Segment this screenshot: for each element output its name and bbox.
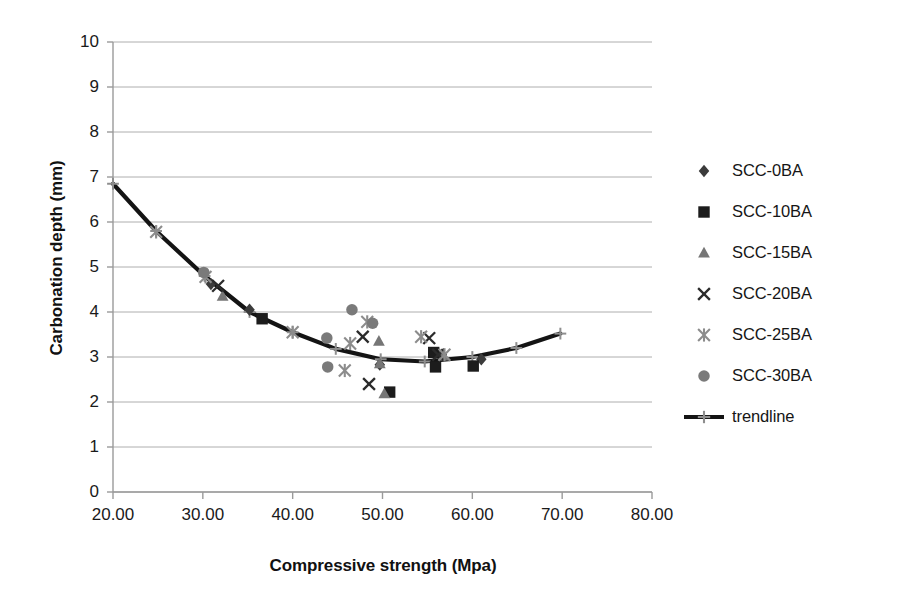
data-point-plus bbox=[330, 343, 342, 355]
data-point-square bbox=[468, 360, 479, 371]
asterisk-marker-icon bbox=[676, 314, 732, 355]
data-point-circle bbox=[321, 332, 333, 344]
data-point-triangle bbox=[373, 335, 385, 346]
data-point-plus bbox=[510, 342, 522, 354]
data-point-triangle bbox=[698, 246, 710, 257]
data-point-circle bbox=[322, 361, 334, 373]
data-point-cross bbox=[698, 288, 710, 300]
legend-item-label: SCC-10BA bbox=[732, 202, 812, 221]
legend-item-label: trendline bbox=[732, 407, 794, 426]
legend-item-scc-0ba[interactable]: SCC-0BA bbox=[676, 150, 906, 191]
data-point-asterisk bbox=[415, 330, 427, 343]
legend: SCC-0BASCC-10BASCC-15BASCC-20BASCC-25BAS… bbox=[676, 150, 906, 437]
axis-lines bbox=[107, 42, 652, 499]
legend-item-scc-20ba[interactable]: SCC-20BA bbox=[676, 273, 906, 314]
data-point-square bbox=[698, 206, 709, 217]
data-point-cross bbox=[357, 331, 369, 343]
data-point-square bbox=[256, 313, 267, 324]
data-point-asterisk bbox=[339, 364, 351, 377]
data-point-square bbox=[430, 361, 441, 372]
legend-item-label: SCC-15BA bbox=[732, 243, 812, 262]
legend-item-label: SCC-0BA bbox=[732, 161, 803, 180]
series-scc-25ba bbox=[150, 225, 450, 377]
data-point-circle bbox=[346, 304, 358, 316]
data-point-circle bbox=[198, 267, 210, 279]
circle-marker-icon bbox=[676, 355, 732, 396]
data-point-asterisk bbox=[344, 337, 356, 350]
data-point-asterisk bbox=[698, 328, 710, 341]
plus-marker-icon bbox=[676, 396, 732, 437]
legend-item-scc-30ba[interactable]: SCC-30BA bbox=[676, 355, 906, 396]
data-point-plus bbox=[554, 328, 566, 340]
data-point-circle bbox=[367, 317, 379, 329]
cross-marker-icon bbox=[676, 273, 732, 314]
trendline-path bbox=[113, 184, 560, 362]
legend-item-label: SCC-30BA bbox=[732, 366, 812, 385]
legend-item-scc-25ba[interactable]: SCC-25BA bbox=[676, 314, 906, 355]
legend-item-trendline[interactable]: trendline bbox=[676, 396, 906, 437]
legend-item-label: SCC-20BA bbox=[732, 284, 812, 303]
data-point-plus bbox=[698, 410, 710, 422]
data-point-circle bbox=[698, 370, 710, 382]
legend-item-scc-15ba[interactable]: SCC-15BA bbox=[676, 232, 906, 273]
trendline-series bbox=[107, 178, 566, 368]
data-point-cross bbox=[363, 378, 375, 390]
legend-item-scc-10ba[interactable]: SCC-10BA bbox=[676, 191, 906, 232]
data-point-diamond bbox=[699, 164, 710, 176]
square-marker-icon bbox=[676, 191, 732, 232]
triangle-marker-icon bbox=[676, 232, 732, 273]
scatter-chart: Carbonation depth (mm) Compressive stren… bbox=[0, 0, 911, 605]
diamond-marker-icon bbox=[676, 150, 732, 191]
legend-item-label: SCC-25BA bbox=[732, 325, 812, 344]
